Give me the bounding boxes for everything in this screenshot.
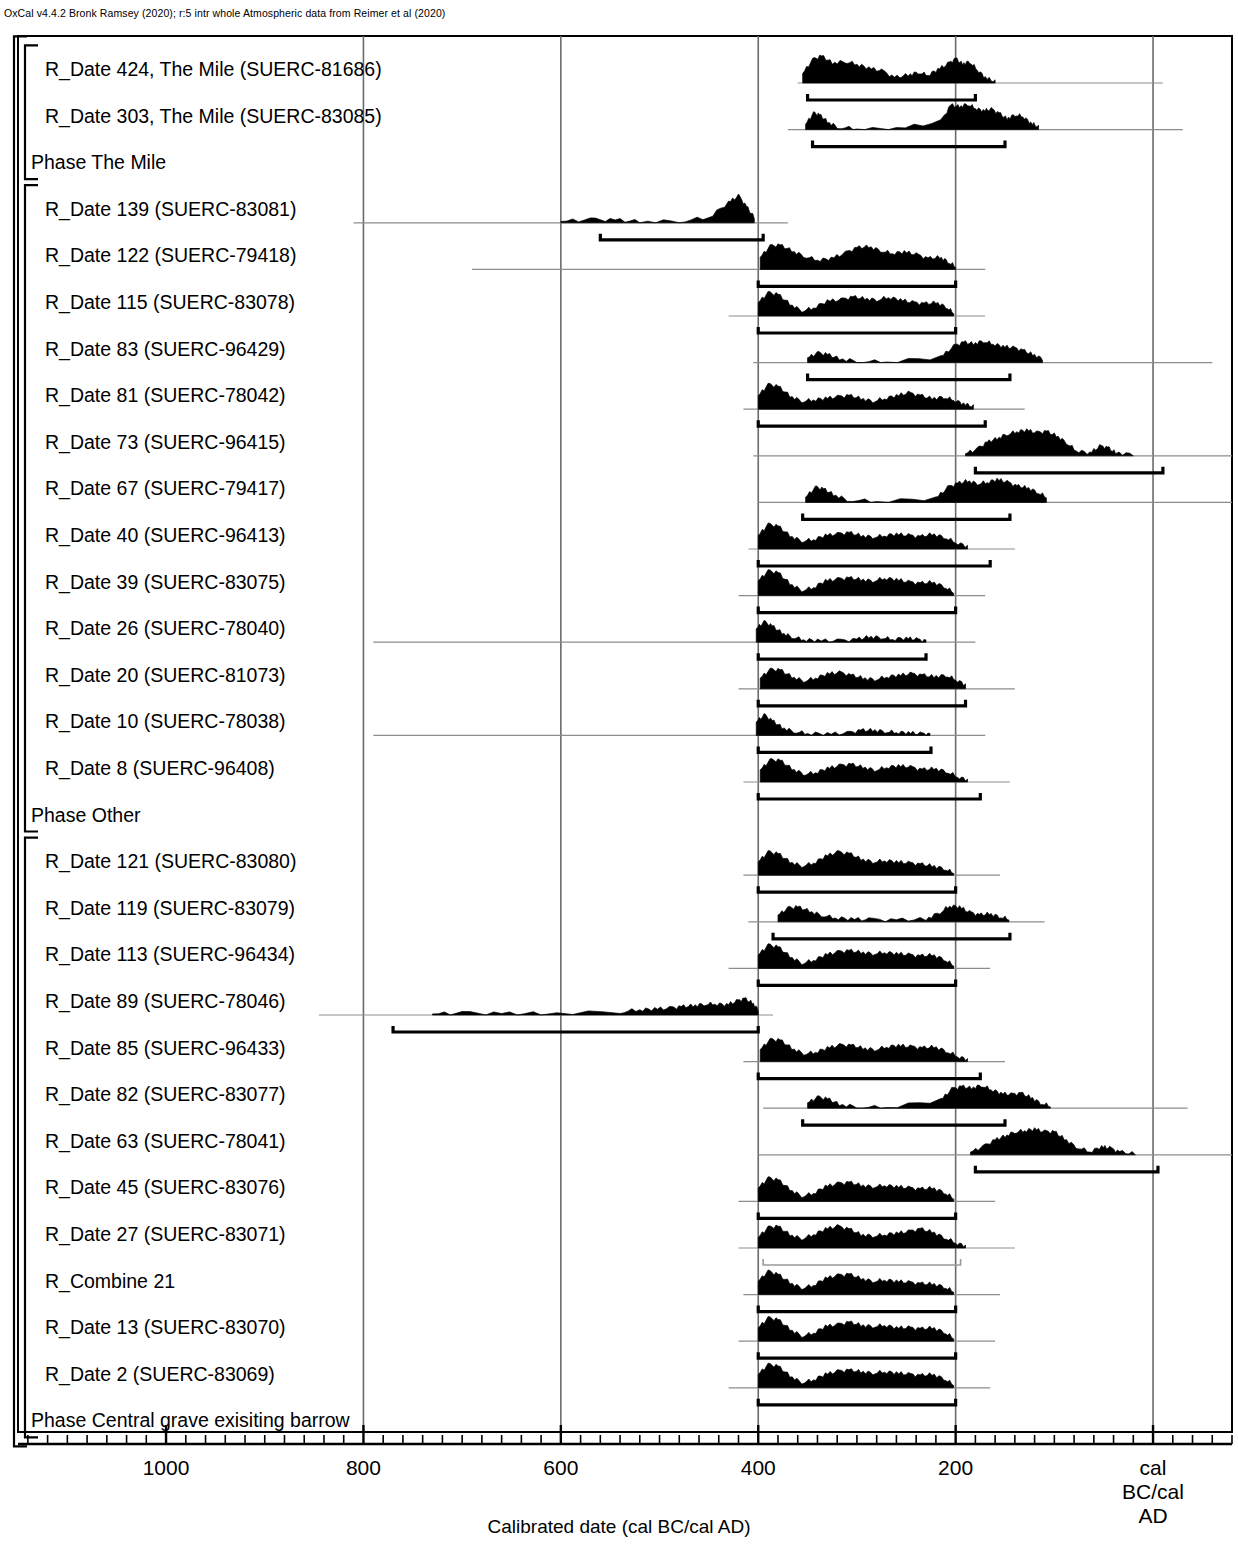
range-bar bbox=[773, 933, 1010, 939]
range-bar bbox=[813, 141, 1005, 147]
row-label-4: R_Date 115 (SUERC-83078) bbox=[45, 291, 295, 314]
row-label-20: R_Date 82 (SUERC-83077) bbox=[45, 1083, 286, 1106]
phase-label-0: Phase The Mile bbox=[31, 151, 166, 174]
range-bar bbox=[758, 886, 955, 892]
distribution-curve bbox=[803, 55, 995, 83]
phase-bracket-1 bbox=[25, 185, 38, 831]
distribution-curve bbox=[758, 383, 973, 409]
distribution-curve bbox=[758, 851, 953, 876]
range-bar bbox=[803, 1119, 1005, 1125]
distribution-curve bbox=[758, 1177, 953, 1202]
x-tick-label-4: 200 bbox=[938, 1456, 973, 1480]
row-label-25: R_Date 13 (SUERC-83070) bbox=[45, 1316, 286, 1339]
distribution-curve bbox=[808, 341, 1043, 363]
x-tick-label-1: 800 bbox=[346, 1456, 381, 1480]
range-bar bbox=[975, 1166, 1158, 1172]
range-bar bbox=[758, 653, 926, 659]
range-bar bbox=[758, 1073, 980, 1079]
x-tick-label-3: 400 bbox=[741, 1456, 776, 1480]
distribution-curve bbox=[760, 244, 955, 270]
row-label-2: R_Date 139 (SUERC-83081) bbox=[45, 198, 296, 221]
row-label-11: R_Date 26 (SUERC-78040) bbox=[45, 617, 286, 640]
distribution-curve bbox=[758, 291, 953, 316]
distribution-curve bbox=[433, 998, 759, 1015]
row-label-15: R_Date 121 (SUERC-83080) bbox=[45, 850, 296, 873]
row-label-9: R_Date 40 (SUERC-96413) bbox=[45, 524, 286, 547]
distribution-curve bbox=[758, 570, 953, 596]
distribution-curve bbox=[756, 620, 926, 642]
x-tick-label-5: cal BC/cal AD bbox=[1111, 1456, 1196, 1528]
phase-bracket-2 bbox=[25, 838, 38, 1438]
distribution-curve bbox=[760, 668, 965, 689]
row-label-26: R_Date 2 (SUERC-83069) bbox=[45, 1363, 275, 1386]
range-bar bbox=[758, 280, 955, 286]
range-bar bbox=[758, 979, 955, 985]
distribution-curve bbox=[758, 523, 967, 549]
distribution-curve bbox=[778, 905, 1009, 922]
row-label-12: R_Date 20 (SUERC-81073) bbox=[45, 664, 286, 687]
row-label-16: R_Date 119 (SUERC-83079) bbox=[45, 897, 295, 920]
distribution-curve bbox=[808, 1085, 1051, 1108]
distribution-curve bbox=[758, 1363, 953, 1388]
range-bar bbox=[758, 607, 955, 613]
range-bar bbox=[600, 234, 763, 240]
row-label-22: R_Date 45 (SUERC-83076) bbox=[45, 1176, 286, 1199]
row-label-6: R_Date 81 (SUERC-78042) bbox=[45, 384, 286, 407]
range-bar bbox=[758, 420, 985, 426]
range-bar bbox=[393, 1026, 758, 1032]
row-label-13: R_Date 10 (SUERC-78038) bbox=[45, 710, 286, 733]
range-bar bbox=[808, 94, 976, 100]
row-label-8: R_Date 67 (SUERC-79417) bbox=[45, 477, 286, 500]
range-bar bbox=[808, 374, 1010, 380]
row-label-1: R_Date 303, The Mile (SUERC-83085) bbox=[45, 105, 382, 128]
range-bar bbox=[758, 1352, 955, 1358]
distribution-curve bbox=[806, 104, 1039, 130]
range-bar bbox=[758, 700, 965, 706]
x-axis-title: Calibrated date (cal BC/cal AD) bbox=[0, 1516, 1238, 1538]
range-bar bbox=[758, 793, 980, 799]
phase-label-1: Phase Other bbox=[31, 804, 140, 827]
range-bar bbox=[758, 746, 931, 752]
distribution-curve bbox=[970, 1128, 1135, 1155]
distribution-curve bbox=[760, 1038, 967, 1061]
distribution-curve bbox=[758, 1317, 953, 1342]
x-tick-label-2: 600 bbox=[543, 1456, 578, 1480]
range-bar bbox=[758, 1306, 955, 1312]
row-label-3: R_Date 122 (SUERC-79418) bbox=[45, 244, 296, 267]
range-bar bbox=[803, 513, 1010, 519]
range-bar bbox=[758, 1212, 955, 1218]
row-label-7: R_Date 73 (SUERC-96415) bbox=[45, 431, 286, 454]
distribution-curve bbox=[561, 194, 754, 223]
row-label-0: R_Date 424, The Mile (SUERC-81686) bbox=[45, 58, 382, 81]
row-label-23: R_Date 27 (SUERC-83071) bbox=[45, 1223, 286, 1246]
range-bar bbox=[758, 327, 955, 333]
x-tick-label-0: 1000 bbox=[143, 1456, 190, 1480]
distribution-curve bbox=[758, 1225, 965, 1248]
range-bar bbox=[975, 467, 1163, 473]
phase-label-2: Phase Central grave exisiting barrow bbox=[31, 1409, 350, 1432]
distribution-curve bbox=[760, 759, 967, 782]
row-label-24: R_Combine 21 bbox=[45, 1270, 175, 1293]
distribution-curve bbox=[758, 944, 953, 969]
distribution-curve bbox=[756, 714, 930, 736]
distribution-curve bbox=[758, 1270, 953, 1295]
range-bar bbox=[758, 1399, 955, 1405]
distribution-curve bbox=[966, 429, 1134, 456]
row-label-19: R_Date 85 (SUERC-96433) bbox=[45, 1037, 286, 1060]
distribution-curve bbox=[806, 478, 1047, 502]
row-label-18: R_Date 89 (SUERC-78046) bbox=[45, 990, 286, 1013]
row-label-21: R_Date 63 (SUERC-78041) bbox=[45, 1130, 286, 1153]
row-label-5: R_Date 83 (SUERC-96429) bbox=[45, 338, 286, 361]
row-label-14: R_Date 8 (SUERC-96408) bbox=[45, 757, 275, 780]
range-bar bbox=[763, 1259, 960, 1265]
row-label-17: R_Date 113 (SUERC-96434) bbox=[45, 943, 295, 966]
row-label-10: R_Date 39 (SUERC-83075) bbox=[45, 571, 286, 594]
